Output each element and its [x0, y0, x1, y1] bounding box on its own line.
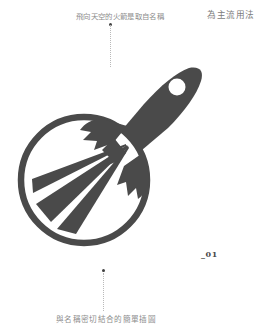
rocket-fin-upper-icon [80, 119, 127, 150]
illustration-page: 飛向天空的火箭是取自名稱 為主流用法 [0, 0, 273, 334]
rocket-window-icon [169, 79, 186, 96]
rocket-body-icon [122, 68, 202, 150]
rocket-and-rays-logo [14, 58, 210, 254]
bottom-leader-dot [102, 269, 105, 272]
logo-ink-group [21, 68, 202, 243]
bottom-annotation-caption: 與名稱密切結合的簡單插圖 [56, 315, 156, 324]
logo-svg [14, 58, 210, 254]
top-annotation-caption: 飛向天空的火箭是取自名稱 [76, 12, 164, 21]
bottom-leader-line [103, 273, 105, 311]
index-number-label: _01 [201, 249, 218, 259]
right-annotation-caption: 為主流用法 [207, 10, 255, 21]
